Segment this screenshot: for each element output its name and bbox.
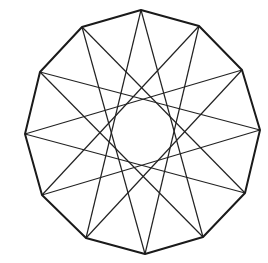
- star-line: [145, 26, 199, 254]
- dodecagon-outline: [25, 10, 260, 254]
- star-line: [82, 27, 145, 254]
- star-line: [86, 10, 141, 238]
- star-line: [42, 26, 199, 195]
- star-lines: [25, 10, 260, 254]
- star-line: [42, 130, 260, 195]
- star-line: [40, 72, 260, 130]
- star-line: [25, 134, 245, 193]
- star-polygon-diagram: [0, 0, 268, 263]
- star-line: [141, 10, 203, 237]
